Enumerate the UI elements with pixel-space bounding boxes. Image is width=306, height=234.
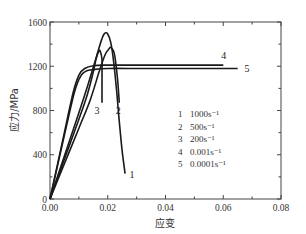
axes: 0.000.020.040.060.08040080012001600 [28, 18, 290, 214]
y-axis-label: 应力/MPa [8, 88, 20, 132]
x-tick-label: 0.06 [215, 203, 232, 213]
x-tick-label: 0.04 [157, 203, 174, 213]
y-tick-label: 400 [33, 150, 48, 160]
legend-id: 2 [178, 122, 183, 132]
legend-id: 1 [178, 109, 183, 119]
legend-rate: 1000s⁻¹ [190, 109, 219, 119]
curve-3 [50, 50, 102, 199]
curve-label-3: 3 [95, 105, 100, 116]
curve-label-1: 1 [130, 169, 135, 180]
legend-id: 4 [178, 147, 183, 157]
y-tick-label: 0 [42, 195, 47, 205]
x-axis-label: 应变 [155, 217, 175, 229]
y-tick-label: 1200 [28, 62, 47, 72]
legend-id: 5 [178, 159, 183, 169]
curve-label-4: 4 [221, 50, 226, 61]
curve-label-2: 2 [116, 105, 121, 116]
y-tick-label: 800 [33, 106, 48, 116]
legend: 11000s⁻¹2500s⁻¹3200s⁻¹40.001s⁻¹50.0001s⁻… [178, 109, 226, 169]
legend-rate: 200s⁻¹ [190, 134, 215, 144]
y-tick-label: 1600 [28, 18, 47, 28]
legend-id: 3 [178, 134, 183, 144]
x-tick-label: 0.02 [99, 203, 116, 213]
stress-strain-chart: 0.000.020.040.060.08040080012001600 1234… [0, 0, 306, 234]
curve-2 [50, 47, 119, 199]
curve-1 [50, 33, 125, 199]
curve-label-5: 5 [245, 63, 250, 74]
x-tick-label: 0.00 [42, 203, 59, 213]
legend-rate: 500s⁻¹ [190, 122, 215, 132]
legend-rate: 0.001s⁻¹ [190, 147, 222, 157]
plot-frame [50, 22, 281, 199]
x-tick-label: 0.08 [273, 203, 290, 213]
legend-rate: 0.0001s⁻¹ [190, 159, 226, 169]
